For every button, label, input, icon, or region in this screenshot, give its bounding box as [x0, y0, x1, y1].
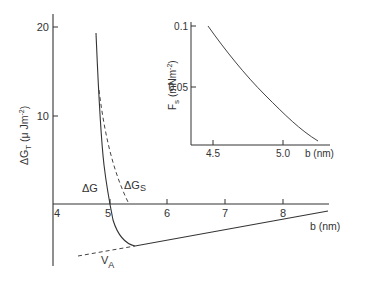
inset-ytick-0.1: 0.1 — [174, 21, 188, 32]
main-ytick-10: 10 — [37, 110, 49, 122]
inset-chart: 0.1 0.05 4.5 5.0 b (nm) Fs (mNm-2) — [166, 21, 334, 159]
main-xtick-8: 8 — [280, 207, 286, 219]
main-ytick-20: 20 — [37, 21, 49, 33]
fs-curve — [208, 26, 318, 141]
annotation-delta-g: ΔG — [82, 182, 98, 194]
annotation-delta-gs: ΔGS — [124, 179, 146, 193]
main-x-label: b (nm) — [310, 220, 340, 232]
inset-xtick-4.5: 4.5 — [206, 148, 220, 159]
chart-figure: 20 10 4 5 6 7 8 b (nm) ΔGT (μ Jm-2) ΔG Δ… — [0, 0, 367, 283]
main-xtick-4: 4 — [54, 207, 60, 219]
main-xtick-6: 6 — [164, 207, 170, 219]
main-y-label: ΔGT (μ Jm-2) — [18, 106, 33, 165]
inset-x-label: b (nm) — [305, 148, 334, 159]
main-xtick-7: 7 — [222, 207, 228, 219]
main-chart: 20 10 4 5 6 7 8 b (nm) ΔGT (μ Jm-2) ΔG Δ… — [18, 14, 340, 270]
main-xtick-5: 5 — [105, 207, 111, 219]
inset-xtick-5.0: 5.0 — [276, 148, 290, 159]
annotation-va: VA — [101, 254, 114, 270]
delta-g-curve — [96, 33, 328, 246]
